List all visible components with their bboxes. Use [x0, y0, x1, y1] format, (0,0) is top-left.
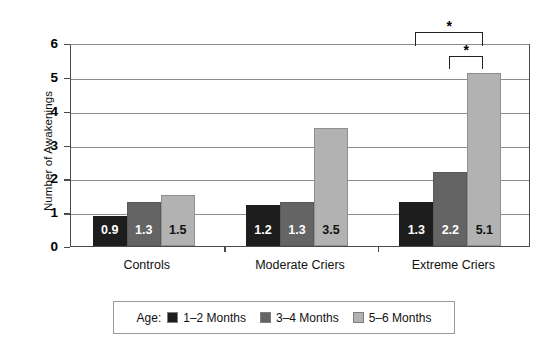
y-axis-tick-mark — [64, 179, 70, 180]
gridline — [71, 79, 529, 80]
bar: 1.3 — [399, 202, 433, 246]
y-axis-tick-label: 3 — [12, 139, 58, 153]
significance-asterisk: * — [415, 19, 483, 33]
y-axis-tick-mark — [64, 146, 70, 147]
legend: Age: 1–2 Months3–4 Months5–6 Months — [113, 301, 455, 334]
legend-label: 3–4 Months — [276, 311, 339, 325]
y-axis-tick-mark — [64, 78, 70, 79]
legend-swatch — [167, 312, 178, 323]
legend-title: Age: — [137, 311, 162, 325]
legend-swatch — [260, 312, 271, 323]
bar: 5.1 — [467, 73, 501, 246]
gridline — [71, 113, 529, 114]
bar: 3.5 — [314, 128, 348, 246]
legend-entry: 5–6 Months — [353, 311, 432, 325]
bar-chart-figure: Number of Awakenings 0123456 0.91.31.51.… — [0, 0, 552, 351]
category-tick — [378, 246, 379, 252]
bar-value-label: 0.9 — [94, 224, 126, 237]
bar-value-label: 1.2 — [247, 224, 279, 237]
legend-label: 5–6 Months — [369, 311, 432, 325]
plot-area: 0.91.31.51.21.33.51.32.25.1 — [70, 44, 530, 247]
category-label: Moderate Criers — [220, 258, 380, 272]
y-axis-tick-mark — [64, 112, 70, 113]
bar: 0.9 — [93, 216, 127, 246]
y-axis-tick-mark — [64, 213, 70, 214]
legend-entry: 1–2 Months — [167, 311, 246, 325]
y-axis-tick-label: 0 — [12, 240, 58, 254]
bar: 1.5 — [161, 195, 195, 246]
category-label: Extreme Criers — [373, 258, 533, 272]
legend-swatch — [353, 312, 364, 323]
bar: 2.2 — [433, 172, 467, 246]
y-axis-tick-label: 1 — [12, 206, 58, 220]
bar-value-label: 5.1 — [468, 224, 500, 237]
y-axis-tick-mark — [64, 44, 70, 45]
legend-label: 1–2 Months — [183, 311, 246, 325]
significance-asterisk: * — [449, 43, 483, 57]
bar-value-label: 1.5 — [162, 224, 194, 237]
gridline — [71, 147, 529, 148]
y-axis-tick-label: 4 — [12, 105, 58, 119]
bar: 1.2 — [246, 205, 280, 246]
bar: 1.3 — [280, 202, 314, 246]
bar-value-label: 2.2 — [434, 224, 466, 237]
y-axis-tick-label: 6 — [12, 37, 58, 51]
bar-value-label: 3.5 — [315, 224, 347, 237]
y-axis-tick-label: 2 — [12, 172, 58, 186]
bar-value-label: 1.3 — [400, 224, 432, 237]
bar: 1.3 — [127, 202, 161, 246]
legend-entries: 1–2 Months3–4 Months5–6 Months — [167, 311, 431, 325]
bar-value-label: 1.3 — [281, 224, 313, 237]
category-tick — [224, 246, 225, 252]
legend-entry: 3–4 Months — [260, 311, 339, 325]
bar-value-label: 1.3 — [128, 224, 160, 237]
y-axis-tick-mark — [64, 247, 70, 248]
category-label: Controls — [67, 258, 227, 272]
y-axis-tick-label: 5 — [12, 71, 58, 85]
